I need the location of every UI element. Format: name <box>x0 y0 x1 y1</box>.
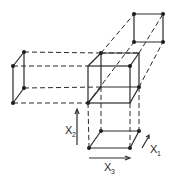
top-right-projection <box>132 12 165 44</box>
bottom-projection <box>87 129 141 150</box>
svg-text:3: 3 <box>111 168 115 175</box>
central-cube <box>86 51 141 105</box>
svg-text:2: 2 <box>72 131 76 138</box>
axis-x2: X 2 <box>65 109 79 145</box>
axis-x1: X 1 <box>142 135 161 157</box>
left-projection <box>11 50 26 105</box>
cube-projection-diagram: X 2 X 3 X 1 <box>0 0 176 183</box>
axis-x3: X 3 <box>89 156 130 175</box>
svg-text:1: 1 <box>157 150 161 157</box>
